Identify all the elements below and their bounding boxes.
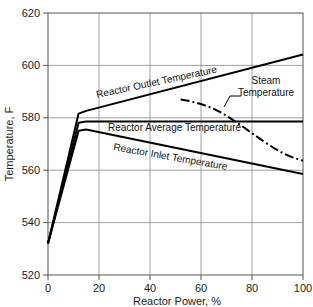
y-tick-label-580: 580 <box>22 111 40 123</box>
y-tick-label-620: 620 <box>22 7 40 19</box>
annotation-steam-temperature-line1: Steam <box>252 75 281 86</box>
y-tick-label-520: 520 <box>22 269 40 281</box>
x-tick-label-40: 40 <box>144 282 156 294</box>
annotation-steam-temperature-line2: Temperature <box>238 87 295 98</box>
x-tick-label-60: 60 <box>195 282 207 294</box>
x-tick-label-80: 80 <box>246 282 258 294</box>
x-tick-label-100: 100 <box>294 282 312 294</box>
y-axis-tickmarks <box>43 13 48 275</box>
x-axis-tickmarks <box>48 275 303 280</box>
plot-area-background <box>48 13 303 275</box>
x-tick-label-20: 20 <box>93 282 105 294</box>
temperature-vs-power-chart: 520 540 560 580 600 620 0 20 40 60 80 10… <box>0 0 313 307</box>
y-tick-label-560: 560 <box>22 164 40 176</box>
chart-container: 520 540 560 580 600 620 0 20 40 60 80 10… <box>0 0 313 307</box>
y-tick-label-540: 540 <box>22 216 40 228</box>
x-axis-title: Reactor Power, % <box>133 295 221 307</box>
y-tick-label-600: 600 <box>22 59 40 71</box>
annotation-reactor-average-temperature: Reactor Average Temperature <box>108 122 241 133</box>
y-axis-title: Temperature, F <box>3 106 15 181</box>
x-tick-label-0: 0 <box>45 282 51 294</box>
